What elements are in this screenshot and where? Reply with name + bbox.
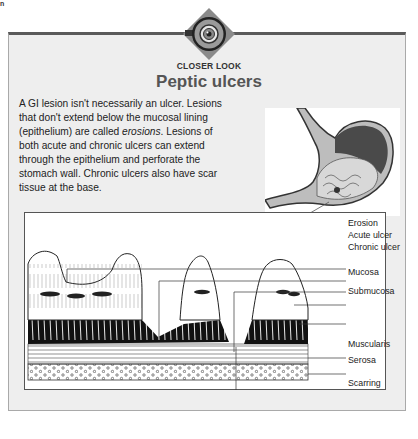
label-submucosa: Submucosa	[348, 286, 394, 296]
intro-emphasis: erosions	[122, 126, 161, 137]
stomach-wall-cross-section	[24, 212, 386, 390]
stomach-illustration	[265, 108, 400, 216]
intro-paragraph: A GI lesion isn't necessarily an ulcer. …	[19, 97, 234, 195]
section-kicker: CLOSER LOOK	[0, 61, 418, 71]
label-chronic-ulcer: Chronic ulcer	[348, 242, 400, 252]
eye-lens-icon	[183, 8, 235, 60]
label-erosion: Erosion	[348, 218, 378, 228]
label-mucosa: Mucosa	[348, 267, 379, 277]
label-acute-ulcer: Acute ulcer	[348, 230, 392, 240]
page-corner-mark: n	[0, 0, 4, 7]
page-title: Peptic ulcers	[0, 72, 418, 92]
label-serosa: Serosa	[348, 355, 376, 365]
label-muscularis: Muscularis	[348, 339, 390, 349]
label-scarring: Scarring	[348, 378, 381, 388]
